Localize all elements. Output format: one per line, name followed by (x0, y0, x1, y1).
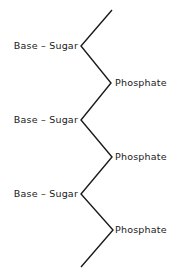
base-sugar-label-2: Base – Sugar (14, 115, 78, 125)
phosphate-label-1: Phosphate (115, 78, 167, 88)
phosphate-label-3: Phosphate (115, 225, 167, 235)
base-sugar-label-3: Base – Sugar (14, 189, 78, 199)
base-sugar-label-1: Base – Sugar (14, 41, 78, 51)
phosphate-label-2: Phosphate (115, 152, 167, 162)
sugar-phosphate-backbone-line (81, 10, 113, 267)
